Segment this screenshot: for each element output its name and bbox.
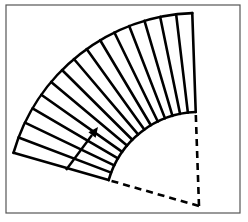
- radial-line: [192, 13, 195, 112]
- annular-sector-diagram: [0, 0, 248, 222]
- annular-sector: [13, 13, 195, 180]
- direction-arrow-icon: [66, 127, 98, 170]
- figure-frame: [6, 5, 240, 213]
- inner-arc: [109, 112, 196, 180]
- dashed-radius-vertical: [196, 112, 199, 206]
- dashed-radii: [109, 112, 199, 206]
- dashed-radius-left: [109, 180, 199, 206]
- outer-arc: [13, 13, 192, 153]
